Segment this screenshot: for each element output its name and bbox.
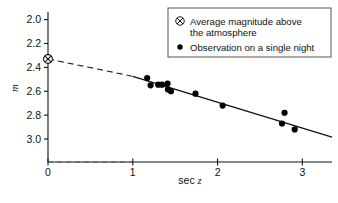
data-points-group: [144, 75, 298, 133]
scatter-plot-svg: 2.02.22.42.62.83.0 0123 sec z m Average …: [0, 0, 338, 203]
x-tick-group: 0123: [45, 159, 305, 179]
data-point-observation: [292, 126, 298, 132]
legend-label-average-magnitude-line1: Average magnitude above: [190, 16, 302, 27]
legend: Average magnitude above the atmosphere O…: [168, 8, 331, 57]
data-point-observation: [144, 75, 150, 81]
x-tick-label: 3: [299, 166, 305, 178]
x-tick-label: 0: [45, 166, 51, 178]
x-label-sec: sec: [178, 174, 197, 186]
x-tick-label: 1: [130, 166, 136, 178]
y-axis-label: m: [8, 84, 20, 92]
data-point-observation: [168, 88, 174, 94]
legend-marker-filled-circle: [177, 44, 182, 49]
chart-figure: 2.02.22.42.62.83.0 0123 sec z m Average …: [0, 0, 338, 203]
legend-label-average-magnitude-line2: the atmosphere: [190, 27, 257, 38]
data-point-observation: [147, 82, 153, 88]
data-point-observation: [220, 102, 226, 108]
data-point-observation: [164, 80, 170, 86]
y-tick-label: 2.0: [26, 13, 41, 25]
x-axis-label: sec z: [178, 174, 201, 186]
extrapolated-magnitude-marker-group: [44, 55, 53, 64]
extrapolation-dashed-line: [48, 59, 133, 76]
y-tick-group: 2.02.22.42.62.83.0: [26, 13, 48, 144]
y-tick-label: 2.6: [26, 85, 41, 97]
y-tick-label: 2.2: [26, 37, 41, 49]
y-tick-label: 3.0: [26, 133, 41, 145]
data-point-observation: [281, 110, 287, 116]
x-tick-label: 2: [215, 166, 221, 178]
data-point-observation: [192, 91, 198, 97]
data-point-observation: [279, 120, 285, 126]
y-tick-label: 2.8: [26, 109, 41, 121]
x-label-z: z: [197, 175, 202, 186]
legend-label-observation: Observation on a single night: [190, 42, 315, 53]
y-tick-label: 2.4: [26, 61, 41, 73]
data-point-observation: [159, 82, 165, 88]
